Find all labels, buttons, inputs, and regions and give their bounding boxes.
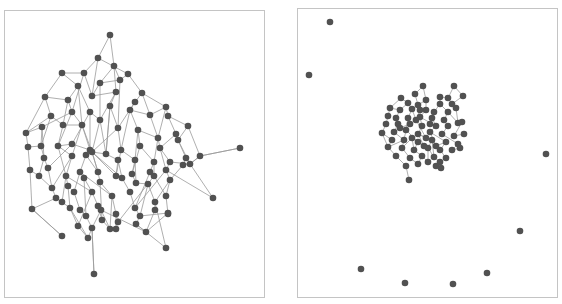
graph-node xyxy=(63,173,70,180)
graph-node xyxy=(398,95,405,102)
graph-node xyxy=(437,101,444,108)
graph-node xyxy=(443,139,450,146)
network-graphs-canvas xyxy=(0,0,562,304)
graph-node xyxy=(429,137,436,144)
graph-edge xyxy=(84,73,92,96)
graph-edge xyxy=(45,73,62,97)
graph-node xyxy=(132,99,139,106)
graph-node xyxy=(48,113,55,120)
graph-node xyxy=(129,171,136,178)
graph-node xyxy=(197,153,204,160)
graph-node xyxy=(59,199,66,206)
graph-node xyxy=(517,228,524,235)
graph-node xyxy=(389,137,396,144)
graph-node xyxy=(415,131,422,138)
graph-edge xyxy=(110,196,112,229)
graph-node xyxy=(402,280,409,287)
graph-node xyxy=(119,175,126,182)
graph-edge xyxy=(98,35,110,58)
graph-node xyxy=(95,55,102,62)
graph-node xyxy=(327,19,334,26)
graph-node xyxy=(99,217,106,224)
graph-node xyxy=(87,109,94,116)
graph-node xyxy=(412,91,419,98)
graph-edge xyxy=(58,112,72,146)
graph-node xyxy=(443,155,450,162)
graph-node xyxy=(67,205,74,212)
edge-layer xyxy=(26,35,240,274)
graph-node xyxy=(438,165,445,172)
graph-edge xyxy=(146,213,168,232)
graph-node xyxy=(89,225,96,232)
graph-node xyxy=(429,115,436,122)
graph-edge xyxy=(32,209,62,236)
graph-node xyxy=(393,153,400,160)
graph-node xyxy=(421,143,428,150)
graph-edge xyxy=(168,116,188,126)
graph-node xyxy=(98,207,105,214)
graph-node xyxy=(89,93,96,100)
graph-node xyxy=(445,95,452,102)
graph-edge xyxy=(142,93,150,115)
graph-node xyxy=(423,135,430,142)
graph-edge xyxy=(200,148,240,156)
graph-node xyxy=(115,157,122,164)
graph-edge xyxy=(68,186,70,208)
graph-node xyxy=(401,137,408,144)
graph-node xyxy=(53,195,60,202)
graph-node xyxy=(385,144,392,151)
graph-node xyxy=(167,159,174,166)
graph-node xyxy=(29,206,36,213)
graph-node xyxy=(113,173,120,180)
graph-node xyxy=(75,223,82,230)
graph-node xyxy=(403,127,410,134)
graph-node xyxy=(183,155,190,162)
graph-node xyxy=(427,129,434,136)
graph-node xyxy=(406,177,413,184)
graph-edge xyxy=(92,92,116,96)
graph-node xyxy=(81,70,88,77)
graph-node xyxy=(387,105,394,112)
graph-node xyxy=(397,107,404,114)
graph-node xyxy=(107,103,114,110)
graph-node xyxy=(431,154,438,161)
graph-node xyxy=(397,125,404,132)
graph-node xyxy=(83,152,90,159)
graph-node xyxy=(163,104,170,111)
graph-edge xyxy=(45,97,68,100)
graph-node xyxy=(79,122,86,129)
graph-node xyxy=(445,109,452,116)
graph-edge xyxy=(135,172,150,208)
graph-edge xyxy=(28,147,30,170)
graph-edge xyxy=(135,160,136,183)
graph-node xyxy=(59,70,66,77)
graph-node xyxy=(133,180,140,187)
graph-edge xyxy=(100,66,114,83)
graph-node xyxy=(415,161,422,168)
graph-node xyxy=(543,151,550,158)
graph-node xyxy=(71,189,78,196)
graph-node xyxy=(107,226,114,233)
graph-node xyxy=(89,189,96,196)
graph-node xyxy=(77,169,84,176)
graph-node xyxy=(163,245,170,252)
graph-edge xyxy=(128,74,142,93)
graph-node xyxy=(97,80,104,87)
graph-node xyxy=(113,211,120,218)
graph-node xyxy=(81,175,88,182)
graph-node xyxy=(445,123,452,130)
graph-node xyxy=(423,97,430,104)
graph-node xyxy=(139,90,146,97)
graph-node xyxy=(405,100,412,107)
graph-node xyxy=(419,123,426,130)
graph-node xyxy=(151,173,158,180)
graph-node xyxy=(157,145,164,152)
graph-edge xyxy=(78,86,90,112)
graph-node xyxy=(38,143,45,150)
graph-node xyxy=(113,89,120,96)
graph-node xyxy=(132,205,139,212)
graph-node xyxy=(457,145,464,152)
graph-edge xyxy=(100,120,106,154)
graph-node xyxy=(210,195,217,202)
graph-edge xyxy=(166,170,213,198)
